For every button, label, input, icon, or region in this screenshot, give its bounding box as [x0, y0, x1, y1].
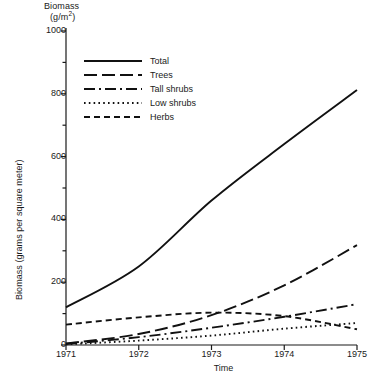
biomass-line-chart: Biomass (g/m2) Biomass (grams per square…	[0, 0, 375, 381]
legend-line-swatch	[84, 69, 142, 81]
legend-line-swatch	[84, 83, 142, 95]
legend-label: Low shrubs	[142, 97, 196, 109]
legend-label: Herbs	[142, 111, 174, 123]
x-tick-marks	[66, 345, 357, 350]
legend: TotalTreesTall shrubsLow shrubsHerbs	[84, 54, 224, 124]
legend-label: Tall shrubs	[142, 83, 193, 95]
legend-line-swatch	[84, 97, 142, 109]
legend-line-swatch	[84, 55, 142, 67]
legend-label: Total	[142, 55, 169, 67]
legend-item: Trees	[84, 68, 224, 82]
legend-line-swatch	[84, 111, 142, 123]
legend-label: Trees	[142, 69, 173, 81]
series-line	[66, 323, 357, 344]
series-lines	[66, 90, 357, 344]
legend-item: Low shrubs	[84, 96, 224, 110]
series-line	[66, 245, 357, 343]
legend-item: Total	[84, 54, 224, 68]
y-tick-marks	[61, 31, 66, 345]
legend-item: Tall shrubs	[84, 82, 224, 96]
legend-item: Herbs	[84, 110, 224, 124]
